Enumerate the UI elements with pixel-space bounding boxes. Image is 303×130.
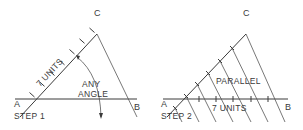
- step1-panel: C A B 7 UNITS ANY ANGLE STEP 1: [14, 8, 140, 121]
- step1-line-cb: [97, 34, 137, 117]
- step2-units-label: 7 UNITS: [212, 103, 247, 113]
- step2-label-a: A: [161, 99, 167, 109]
- step2-step-label: STEP 2: [161, 111, 192, 121]
- step2-parallel-label: PARALLEL: [216, 76, 261, 86]
- step1-arc-arrow-bottom-icon: [99, 113, 103, 119]
- step1-label-b: B: [134, 102, 140, 112]
- step2-label-b: B: [285, 102, 291, 112]
- step1-label-c: C: [94, 8, 101, 18]
- step1-label-a: A: [14, 99, 20, 109]
- step1-step-label: STEP 1: [14, 111, 45, 121]
- step1-units-label: 7 UNITS: [34, 56, 65, 88]
- construction-diagram: C A B 7 UNITS ANY ANGLE STEP 1: [0, 0, 303, 130]
- step2-panel: C A B PARALLEL 7 UNITS STEP 2: [161, 8, 291, 122]
- step1-diagonal-line: [20, 34, 97, 117]
- step1-angle-label-line2: ANGLE: [78, 89, 108, 99]
- step2-label-c: C: [243, 8, 250, 18]
- step1-angle-label-line1: ANY: [82, 79, 100, 89]
